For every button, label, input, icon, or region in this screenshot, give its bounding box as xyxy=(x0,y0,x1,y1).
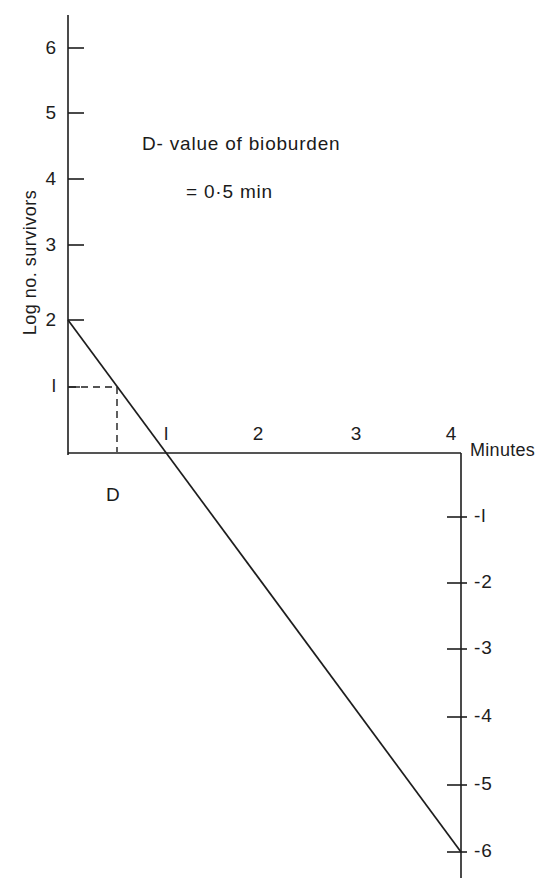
right-tick-label-minus4: -4 xyxy=(474,706,508,725)
annotation-d-value-amount: = 0·5 min xyxy=(186,181,273,203)
d-value-marker-label: D xyxy=(106,484,121,506)
x-tick-label-4: 4 xyxy=(438,424,464,443)
y-tick-label-6: 6 xyxy=(30,38,56,57)
x-tick-label-3: 3 xyxy=(343,424,369,443)
survivor-curve-figure: 6 5 4 3 2 l l 2 3 4 -l -2 -3 -4 -5 -6 Lo… xyxy=(0,0,548,881)
x-tick-label-1: l xyxy=(153,424,179,443)
x-axis-title: Minutes xyxy=(470,441,535,459)
right-tick-label-minus3: -3 xyxy=(474,638,508,657)
x-tick-label-2: 2 xyxy=(245,424,271,443)
right-tick-label-minus1: -l xyxy=(474,506,508,525)
right-tick-label-minus6: -6 xyxy=(474,841,508,860)
right-tick-label-minus5: -5 xyxy=(474,774,508,793)
y-axis-title: Log no. survivors xyxy=(20,173,41,353)
right-tick-label-minus2: -2 xyxy=(474,572,508,591)
annotation-d-value-title: D- value of bioburden xyxy=(142,133,340,155)
y-tick-label-5: 5 xyxy=(30,103,56,122)
y-tick-label-1: l xyxy=(30,376,56,395)
survivor-curve-line xyxy=(68,320,461,852)
